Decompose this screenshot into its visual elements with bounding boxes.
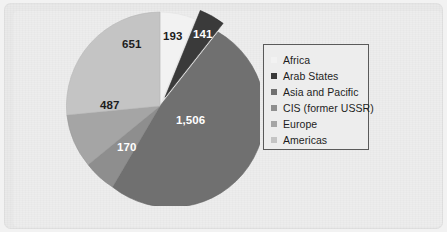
- chart-legend: Africa Arab States Asia and Pacific CIS …: [263, 44, 369, 150]
- slice-value-americas: 651: [122, 38, 142, 50]
- legend-item-cis: CIS (former USSR): [264, 100, 368, 116]
- pie-chart: 193 141 1,506 170 487 651 Africa Arab St…: [0, 0, 447, 232]
- slice-value-europe: 487: [100, 99, 120, 111]
- legend-item-arab-states: Arab States: [264, 68, 368, 84]
- legend-label-arab-states: Arab States: [283, 70, 338, 82]
- legend-swatch-cis: [271, 105, 277, 111]
- page-canvas: 193 141 1,506 170 487 651 Africa Arab St…: [0, 0, 447, 232]
- legend-swatch-europe: [271, 121, 277, 127]
- legend-swatch-arab-states: [271, 73, 277, 79]
- legend-swatch-americas: [271, 137, 277, 143]
- legend-label-africa: Africa: [283, 54, 310, 66]
- slice-value-asia-pacific: 1,506: [176, 114, 205, 126]
- legend-label-asia-and-pacific: Asia and Pacific: [283, 86, 359, 98]
- legend-swatch-asia-and-pacific: [271, 89, 277, 95]
- pie-chart-svg: [60, 6, 260, 206]
- slice-value-cis: 170: [117, 141, 137, 153]
- legend-label-europe: Europe: [283, 118, 317, 130]
- legend-label-americas: Americas: [283, 134, 327, 146]
- legend-swatch-africa: [271, 57, 277, 63]
- legend-item-europe: Europe: [264, 116, 368, 132]
- legend-item-americas: Americas: [264, 132, 368, 148]
- legend-item-africa: Africa: [264, 52, 368, 68]
- slice-value-africa: 193: [163, 30, 183, 42]
- legend-item-asia-and-pacific: Asia and Pacific: [264, 84, 368, 100]
- slice-value-arab-states: 141: [193, 28, 213, 40]
- legend-label-cis: CIS (former USSR): [283, 102, 374, 114]
